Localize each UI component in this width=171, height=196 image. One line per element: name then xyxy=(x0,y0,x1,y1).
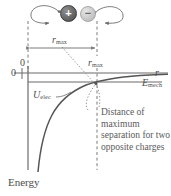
u-elec-label: Uelec xyxy=(33,90,51,100)
force-arrow-left xyxy=(31,6,57,24)
positive-charge-symbol: + xyxy=(65,8,71,19)
force-arrow-right xyxy=(97,7,123,24)
zero-axis-label: 0 xyxy=(11,68,16,78)
energy-diagram-figure: + − rmax 0 rmax 0 r Emech Uelec Energy D… xyxy=(0,0,171,196)
e-mech-label: Emech xyxy=(142,78,162,88)
intersection-point-marker xyxy=(95,82,98,85)
energy-axis-label: Energy xyxy=(8,177,40,188)
positive-charge: + xyxy=(60,5,77,22)
callout-text: Distance of maximum separation for two o… xyxy=(101,107,171,153)
negative-charge-symbol: − xyxy=(85,8,91,19)
rmax-axis-label: rmax xyxy=(88,58,103,68)
diagram-canvas xyxy=(0,0,171,196)
r-axis-label: r xyxy=(155,68,159,78)
rmax-top-label: rmax xyxy=(52,35,67,45)
callout-leader-left xyxy=(86,85,95,110)
negative-charge: − xyxy=(80,6,96,22)
zero-top-label: 0 xyxy=(20,58,25,68)
